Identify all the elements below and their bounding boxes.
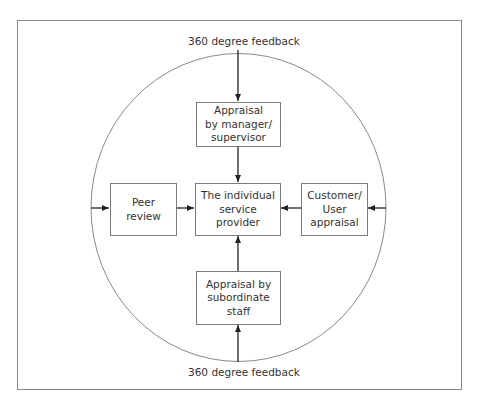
box-line: Appraisal by — [206, 278, 271, 292]
box-line: subordinate — [206, 291, 271, 305]
box-line: provider — [201, 216, 275, 230]
box-line: staff — [206, 305, 271, 319]
box-individual-provider: The individual service provider — [195, 183, 281, 236]
feedback-label-top: 360 degree feedback — [188, 35, 290, 48]
box-line: by manager/ — [205, 118, 272, 132]
box-line: Appraisal — [205, 104, 272, 118]
box-line: review — [126, 210, 161, 224]
box-line: Peer — [126, 196, 161, 210]
box-customer-appraisal: Customer/ User appraisal — [301, 183, 368, 236]
box-line: The individual — [201, 189, 275, 203]
box-line: service — [201, 203, 275, 217]
box-line: User — [307, 203, 362, 217]
box-line: appraisal — [307, 216, 362, 230]
box-subordinate-appraisal: Appraisal by subordinate staff — [196, 271, 281, 325]
box-peer-review: Peer review — [110, 183, 177, 236]
feedback-label-bottom: 360 degree feedback — [188, 366, 290, 379]
box-manager-appraisal: Appraisal by manager/ supervisor — [196, 102, 281, 147]
box-line: Customer/ — [307, 189, 362, 203]
box-line: supervisor — [205, 131, 272, 145]
